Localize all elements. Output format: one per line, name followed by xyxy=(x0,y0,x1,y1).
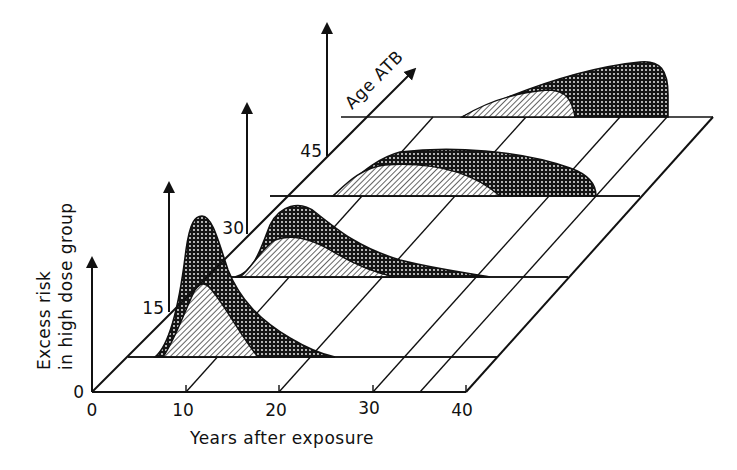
x-tick-0: 0 xyxy=(87,400,98,420)
y-axis-title-line2: in high dose group xyxy=(56,202,76,370)
x-tick-20: 20 xyxy=(265,400,287,420)
x-tick-10: 10 xyxy=(172,400,194,420)
ridge-age-60 xyxy=(462,62,668,117)
y-axis-title-line1: Excess risk xyxy=(34,271,54,370)
age-tick-45: 45 xyxy=(300,141,322,161)
age-atb-axis-title: Age ATB xyxy=(341,46,408,113)
x-tick-40: 40 xyxy=(451,400,473,420)
x-tick-30: 30 xyxy=(358,398,380,418)
x-axis-title: Years after exposure xyxy=(189,428,374,448)
y-tick-0: 0 xyxy=(73,382,84,402)
age-tick-30: 30 xyxy=(222,218,244,238)
ridge-chart: 0 10 20 30 40 Years after exposure 0 15 … xyxy=(0,0,737,470)
age-tick-15: 15 xyxy=(142,298,164,318)
